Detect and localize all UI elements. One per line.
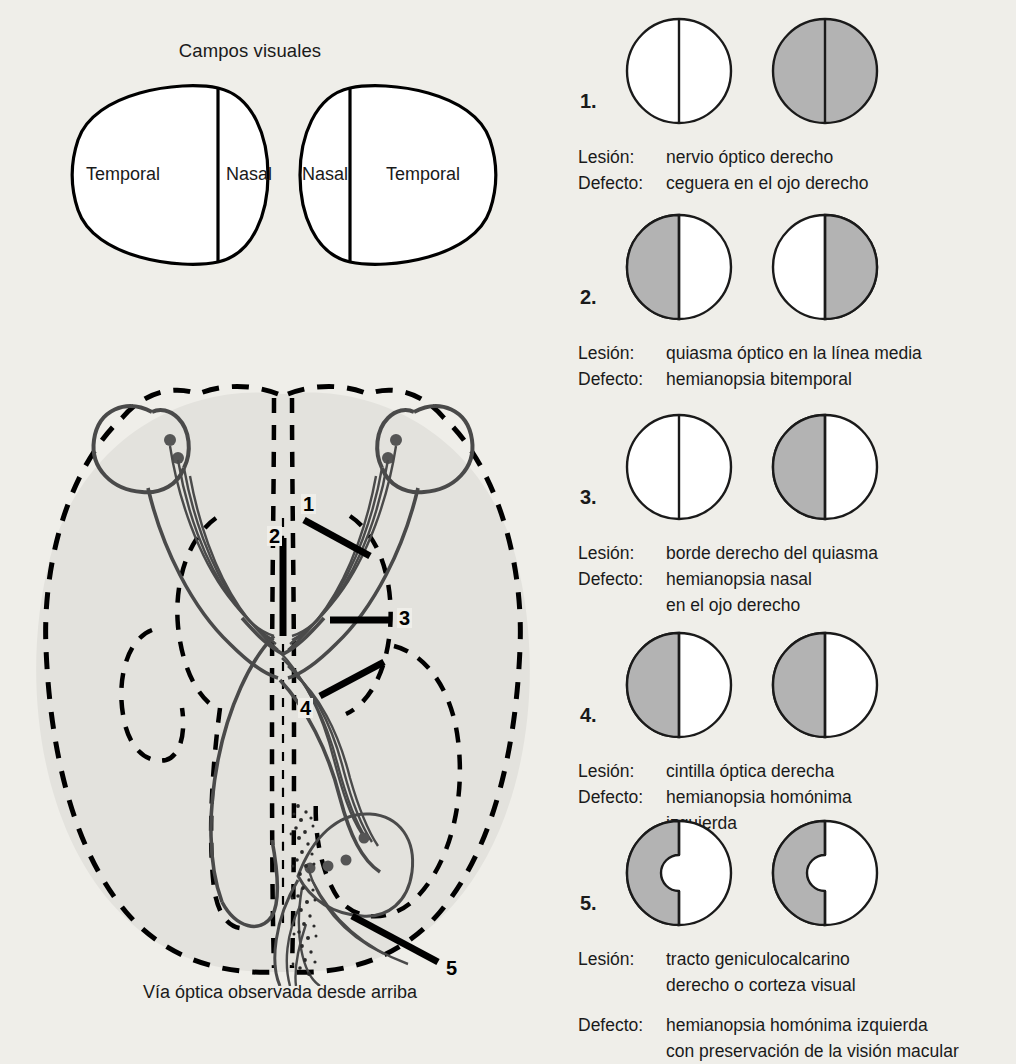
visual-field-left-eye: Temporal Nasal — [68, 82, 280, 268]
case-1-defect-row: Defecto: ceguera en el ojo derecho — [578, 170, 1016, 196]
case-3-left-eye-field — [624, 412, 734, 522]
case-1-defect-key: Defecto: — [578, 170, 666, 196]
case-1-lesion-row: Lesión: nervio óptico derecho — [578, 144, 1016, 170]
case-5-text: Lesión: tracto geniculocalcarino derecho… — [578, 946, 1016, 1064]
case-2-field-diagrams: 2. — [570, 212, 1016, 324]
lgn-cell-3 — [323, 861, 334, 872]
case-5-lesion-key: Lesión: — [578, 946, 666, 972]
case-4-number: 4. — [580, 704, 597, 727]
lgn-cell-1 — [359, 833, 370, 844]
case-3-lesion-value: borde derecho del quiasma — [666, 540, 1016, 566]
case-1-number: 1. — [580, 90, 597, 113]
lesion-number-3: 3 — [397, 608, 412, 628]
case-1-lesion-value: nervio óptico derecho — [666, 144, 1016, 170]
visual-field-right-eye: Nasal Temporal — [288, 82, 500, 268]
retinal-cell-left-temporal — [164, 434, 176, 446]
visual-fields-title: Campos visuales — [0, 40, 500, 62]
case-2-defect-value: hemianopsia bitemporal — [666, 366, 1016, 392]
case-5-defect-value-2: con preservación de la visión macular — [578, 1038, 1016, 1064]
case-2-lesion-row: Lesión: quiasma óptico en la línea media — [578, 340, 1016, 366]
case-1-field-diagrams: 1. — [570, 16, 1016, 128]
case-5-defect-key: Defecto: — [578, 1012, 666, 1038]
case-1-text: Lesión: nervio óptico derecho Defecto: c… — [578, 144, 1016, 196]
case-5-lesion-value: tracto geniculocalcarino — [666, 946, 1016, 972]
case-4-lesion-value: cintilla óptica derecha — [666, 758, 1016, 784]
case-4-lesion-row: Lesión: cintilla óptica derecha — [578, 758, 1016, 784]
case-2-text: Lesión: quiasma óptico en la línea media… — [578, 340, 1016, 392]
optic-pathway-diagram: 1 2 3 4 5 — [2, 368, 564, 986]
case-5-left-eye-field — [624, 818, 734, 928]
lesion-number-2: 2 — [267, 526, 282, 546]
case-3-right-eye-field — [770, 412, 880, 522]
case-2-left-eye-field — [624, 212, 734, 322]
case-5-field-diagrams: 5. — [570, 818, 1016, 930]
case-4-defect-value: hemianopsia homónima — [666, 784, 1016, 810]
case-2-lesion-key: Lesión: — [578, 340, 666, 366]
lesion-number-5: 5 — [444, 958, 459, 978]
figure-canvas: Campos visuales Temporal Nasal Nasal Tem… — [0, 0, 1016, 1064]
case-1-right-eye-field — [770, 16, 880, 126]
visual-fields-row: Temporal Nasal Nasal Temporal — [0, 82, 560, 282]
case-5-right-eye-field — [770, 818, 880, 928]
case-1-left-eye-field — [624, 16, 734, 126]
case-3-lesion-key: Lesión: — [578, 540, 666, 566]
case-2-number: 2. — [580, 286, 597, 309]
optic-pathway-caption: Vía óptica observada desde arriba — [0, 982, 560, 1003]
visual-field-right-inner-label: Nasal — [302, 164, 348, 185]
visual-field-left-outer-label: Temporal — [86, 164, 160, 185]
retinal-cell-right-nasal — [390, 434, 402, 446]
visual-field-left-inner-label: Nasal — [226, 164, 272, 185]
left-panel: Campos visuales Temporal Nasal Nasal Tem… — [0, 0, 570, 1064]
case-3-number: 3. — [580, 486, 597, 509]
case-3-defect-value-2: en el ojo derecho — [578, 592, 1016, 618]
case-1-defect-value: ceguera en el ojo derecho — [666, 170, 1016, 196]
case-5-number: 5. — [580, 892, 597, 915]
lesion-cases-panel: 1. Lesión: nervio óptico — [570, 0, 1016, 1064]
case-5-defect-value: hemianopsia homónima izquierda — [666, 1012, 1016, 1038]
case-4-right-eye-field — [770, 630, 880, 740]
case-2-right-eye-field — [770, 212, 880, 322]
case-4-defect-row: Defecto: hemianopsia homónima — [578, 784, 1016, 810]
case-3-text: Lesión: borde derecho del quiasma Defect… — [578, 540, 1016, 618]
case-4-left-eye-field — [624, 630, 734, 740]
case-1-lesion-key: Lesión: — [578, 144, 666, 170]
case-2-lesion-value: quiasma óptico en la línea media — [666, 340, 1016, 366]
case-2-defect-row: Defecto: hemianopsia bitemporal — [578, 366, 1016, 392]
lesion-number-4: 4 — [298, 698, 313, 718]
case-3-defect-value: hemianopsia nasal — [666, 566, 1016, 592]
case-4-lesion-key: Lesión: — [578, 758, 666, 784]
case-3-defect-row: Defecto: hemianopsia nasal — [578, 566, 1016, 592]
case-4-defect-key: Defecto: — [578, 784, 666, 810]
case-3-lesion-row: Lesión: borde derecho del quiasma — [578, 540, 1016, 566]
case-4-field-diagrams: 4. — [570, 630, 1016, 742]
case-3-defect-key: Defecto: — [578, 566, 666, 592]
visual-field-right-outer-label: Temporal — [386, 164, 460, 185]
case-2-defect-key: Defecto: — [578, 366, 666, 392]
case-5-defect-row: Defecto: hemianopsia homónima izquierda — [578, 1012, 1016, 1038]
case-5-lesion-value-2: derecho o corteza visual — [578, 972, 1016, 998]
lesion-number-1: 1 — [301, 494, 316, 514]
case-3-field-diagrams: 3. — [570, 412, 1016, 524]
case-5-lesion-row: Lesión: tracto geniculocalcarino — [578, 946, 1016, 972]
lgn-cell-2 — [341, 855, 352, 866]
